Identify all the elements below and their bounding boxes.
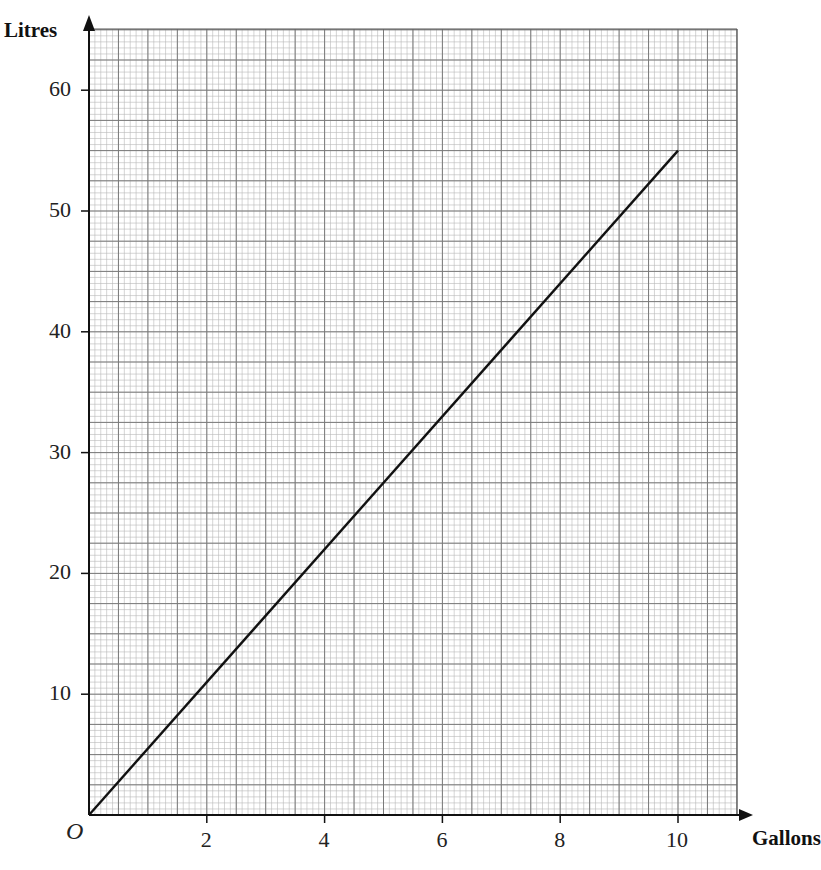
y-tick-label: 30 — [49, 441, 71, 463]
x-tick-label: 2 — [201, 829, 212, 851]
y-tick-label: 20 — [49, 561, 71, 583]
conversion-graph — [0, 0, 821, 870]
origin-label: O — [66, 818, 83, 845]
x-tick-label: 8 — [554, 829, 565, 851]
y-tick-label: 10 — [49, 682, 71, 704]
y-axis-arrow-icon — [83, 15, 95, 31]
x-axis-arrow-icon — [739, 809, 753, 821]
x-tick-label: 4 — [319, 829, 330, 851]
x-tick-label: 6 — [436, 829, 447, 851]
y-tick-label: 60 — [49, 78, 71, 100]
y-tick-label: 50 — [49, 199, 71, 221]
y-tick-label: 40 — [49, 320, 71, 342]
x-axis-label: Gallons — [752, 826, 821, 851]
y-axis-label: Litres — [4, 18, 57, 43]
x-tick-label: 10 — [666, 829, 688, 851]
